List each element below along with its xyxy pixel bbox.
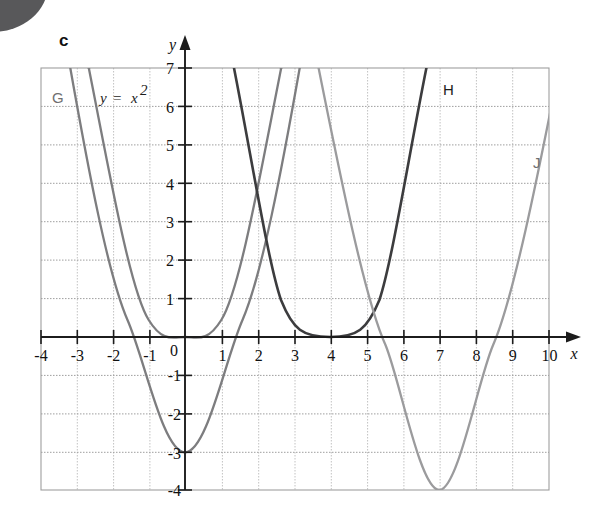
x-tick-label: -3 — [71, 347, 84, 364]
x-tick-label: -1 — [143, 347, 156, 364]
y-tick-label: -1 — [168, 367, 181, 384]
y-tick-label: 1 — [166, 291, 174, 308]
x-axis-arrowhead — [566, 332, 581, 343]
y-tick-label: 5 — [166, 137, 174, 154]
curve-label-g: G — [52, 89, 64, 106]
y-tick-label: -4 — [168, 482, 181, 499]
y-axis-arrowhead — [180, 35, 191, 50]
curve-label-j: J — [533, 154, 541, 171]
x-tick-label: -2 — [107, 347, 120, 364]
x-tick-label: 3 — [291, 347, 299, 364]
equation-x: x — [130, 90, 138, 106]
y-tick-label: 3 — [166, 214, 174, 231]
equation-exponent: 2 — [140, 82, 148, 98]
origin-label: 0 — [170, 342, 178, 359]
curve-label-h: H — [443, 81, 454, 98]
y-tick-label: 7 — [166, 60, 174, 77]
y-tick-label: 4 — [166, 176, 174, 193]
y-tick-label: -2 — [168, 406, 181, 423]
equation-y: y — [98, 90, 107, 106]
y-tick-label: 6 — [166, 99, 174, 116]
x-tick-label: 10 — [542, 347, 558, 364]
equation-equals: = — [113, 90, 121, 106]
coordinate-plot: -4 -3 -2 -1 1 2 3 4 5 6 7 8 9 10 7 6 5 4… — [0, 0, 613, 520]
figure-canvas: c — [0, 0, 613, 520]
x-tick-label: 8 — [472, 347, 480, 364]
x-tick-labels: -4 -3 -2 -1 1 2 3 4 5 6 7 8 9 10 — [34, 347, 557, 364]
y-tick-label: 2 — [166, 252, 174, 269]
x-tick-label: -4 — [34, 347, 47, 364]
x-tick-label: 1 — [218, 347, 226, 364]
y-tick-label: -3 — [168, 445, 181, 462]
x-tick-label: 6 — [400, 347, 408, 364]
x-tick-label: 4 — [327, 347, 335, 364]
x-tick-label: 7 — [436, 347, 444, 364]
y-axis-label: y — [167, 36, 177, 54]
x-tick-label: 5 — [364, 347, 372, 364]
x-tick-label: 2 — [255, 347, 263, 364]
x-axis-label: x — [569, 345, 577, 362]
x-tick-label: 9 — [509, 347, 517, 364]
